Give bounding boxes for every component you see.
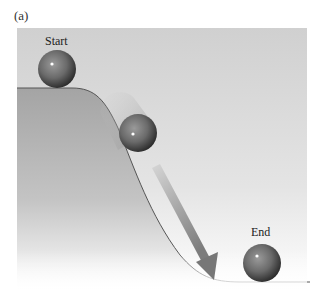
- start-ball: [38, 50, 76, 88]
- middle-ball: [119, 114, 157, 152]
- end-ball: [243, 244, 281, 282]
- hill-diagram: Start End: [0, 0, 321, 302]
- start-label: Start: [45, 34, 68, 48]
- end-label: End: [251, 225, 270, 239]
